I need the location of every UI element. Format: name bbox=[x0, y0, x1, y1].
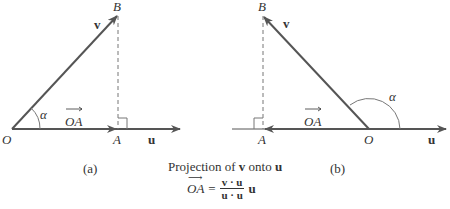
angle-alpha-label: α bbox=[389, 89, 397, 104]
formula-denominator: u · u bbox=[221, 189, 242, 201]
angle-alpha-label: α bbox=[40, 107, 48, 122]
point-o-label: O bbox=[2, 132, 12, 147]
vector-v-label: v bbox=[94, 17, 101, 32]
formula-rhs: u bbox=[248, 181, 255, 197]
projection-formula: ⟶ OA = v · u u · u u bbox=[187, 176, 256, 201]
caption-u: u bbox=[275, 159, 282, 174]
formula-fraction: v · u u · u bbox=[220, 176, 245, 201]
formula-equals: = bbox=[208, 181, 215, 197]
right-angle-mark bbox=[254, 118, 263, 129]
vector-u-label: u bbox=[148, 132, 155, 147]
panel-b-caption: (b) bbox=[330, 161, 345, 177]
panel-a-caption: (a) bbox=[83, 161, 97, 177]
vector-u-label: u bbox=[428, 132, 435, 147]
vector-v-line bbox=[264, 17, 369, 129]
right-angle-mark bbox=[118, 118, 127, 129]
overarrow bbox=[66, 107, 82, 111]
caption-text: onto bbox=[245, 159, 275, 174]
caption-title: Projection of v onto u bbox=[168, 159, 282, 175]
point-a-label: A bbox=[112, 132, 121, 147]
point-a-label: A bbox=[257, 132, 266, 147]
formula-lhs-text: OA bbox=[187, 181, 204, 196]
point-b-label: B bbox=[258, 0, 266, 14]
projection-oa-label: OA bbox=[304, 114, 321, 129]
angle-arc bbox=[31, 108, 40, 129]
panel-b: A O B v u α OA bbox=[232, 0, 446, 147]
formula-numerator: v · u bbox=[220, 176, 245, 189]
vector-v-line bbox=[12, 16, 117, 129]
vector-v-label: v bbox=[283, 16, 290, 31]
caption-text: Projection of bbox=[168, 159, 239, 174]
formula-lhs: ⟶ OA bbox=[187, 181, 204, 197]
point-o-label: O bbox=[364, 132, 374, 147]
overarrow bbox=[305, 107, 321, 111]
point-b-label: B bbox=[113, 0, 121, 14]
panel-a: O A B v u α OA bbox=[2, 0, 180, 147]
projection-oa-label: OA bbox=[65, 114, 82, 129]
overarrow-icon: ⟶ bbox=[188, 172, 202, 183]
